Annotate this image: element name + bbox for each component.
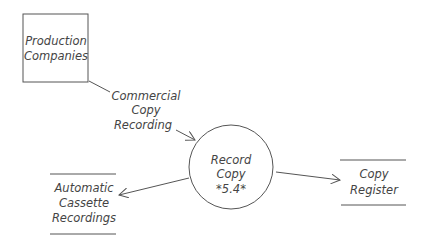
process-label-line-2: Copy: [216, 167, 245, 181]
flow-label-line-3: Recording: [114, 118, 172, 132]
store-label-line-1: Automatic: [54, 181, 115, 195]
store-label-line-2: Cassette: [59, 196, 109, 210]
store-label-line-2: Register: [350, 183, 399, 197]
flow-line-segment: [89, 81, 110, 92]
store-automatic-cassette-recordings[interactable]: Automatic Cassette Recordings: [50, 174, 116, 234]
flow-commercial-copy-recording[interactable]: Commercial Copy Recording: [89, 81, 195, 140]
store-copy-register[interactable]: Copy Register: [340, 160, 406, 205]
entity-production-companies[interactable]: Production Companies: [23, 14, 88, 82]
store-label-line-1: Copy: [359, 167, 388, 181]
flow-label-line-2: Copy: [131, 103, 160, 117]
store-label-line-3: Recordings: [52, 211, 116, 225]
flow-arrow: [176, 130, 195, 140]
flow-label-line-1: Commercial: [111, 89, 181, 103]
flow-to-copy-register[interactable]: [276, 172, 340, 180]
flow-to-auto-cassette[interactable]: [119, 178, 189, 195]
process-record-copy[interactable]: Record Copy *5.4*: [189, 125, 273, 209]
process-label-number: *5.4*: [216, 182, 246, 196]
process-label-line-1: Record: [211, 153, 252, 167]
dfd-canvas: Production Companies Commercial Copy Rec…: [0, 0, 426, 249]
entity-label-line-2: Companies: [24, 49, 88, 63]
entity-label-line-1: Production: [25, 34, 87, 48]
